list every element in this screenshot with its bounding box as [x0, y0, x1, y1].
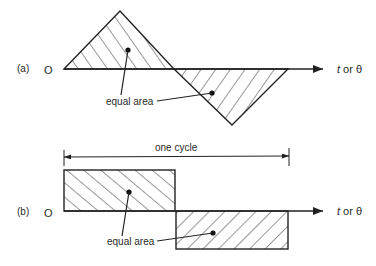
one-cycle-label: one cycle — [155, 142, 198, 153]
panel-b-origin-label: O — [44, 207, 53, 219]
positive-triangle — [64, 11, 174, 69]
equal-area-label-b: equal area — [107, 236, 155, 247]
waveform-diagram: (a) O t or θ equal area (b) O one cycle … — [0, 0, 376, 266]
one-cycle-dimension-line — [64, 156, 289, 157]
negative-triangle — [174, 69, 288, 125]
panel-a-origin-label: O — [44, 64, 53, 76]
axis-label-b: t or θ — [337, 205, 362, 217]
panel-b: (b) O one cycle t or θ equal area — [17, 142, 362, 249]
axis-label-a: t or θ — [337, 63, 362, 75]
panel-a-label: (a) — [17, 63, 29, 74]
equal-area-label-a: equal area — [106, 96, 154, 107]
panel-a: (a) O t or θ equal area — [17, 11, 362, 125]
negative-rectangle — [176, 211, 288, 249]
panel-b-label: (b) — [17, 206, 29, 217]
positive-rectangle — [64, 170, 175, 211]
